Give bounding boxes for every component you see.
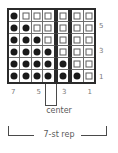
filled-stitch-cell: [32, 46, 43, 58]
empty-stitch-cell: [84, 34, 94, 46]
center-label: center: [0, 106, 118, 116]
chart-row: [9, 58, 94, 70]
empty-stitch-cell: [32, 22, 43, 34]
column-number-label: 1: [84, 88, 96, 96]
stitch-chart-grid: [7, 8, 96, 84]
empty-stitch-cell: [84, 58, 94, 70]
empty-stitch-cell: [43, 34, 55, 46]
dot-symbol-icon: [45, 60, 52, 67]
dot-symbol-icon: [11, 73, 18, 80]
filled-stitch-cell: [56, 70, 70, 82]
open-box-symbol-icon: [85, 12, 92, 19]
empty-stitch-cell: [70, 34, 83, 46]
empty-stitch-cell: [56, 22, 70, 34]
chart-row: [9, 70, 94, 82]
filled-stitch-cell: [32, 58, 43, 70]
chart-row: [9, 22, 94, 34]
open-box-symbol-icon: [85, 48, 92, 55]
open-box-symbol-icon: [74, 60, 81, 67]
open-box-symbol-icon: [74, 36, 81, 43]
repeat-label: 7-st rep: [0, 130, 118, 140]
row-number-label: 5: [99, 23, 113, 30]
filled-stitch-cell: [43, 70, 55, 82]
filled-stitch-cell: [9, 70, 20, 82]
stitch-chart-figure: center 7-st rep 5317531: [0, 0, 118, 153]
empty-stitch-cell: [56, 34, 70, 46]
open-box-symbol-icon: [85, 24, 92, 31]
dot-symbol-icon: [45, 73, 52, 80]
open-box-symbol-icon: [22, 12, 29, 19]
dot-symbol-icon: [22, 36, 29, 43]
chart-row: [9, 46, 94, 58]
filled-stitch-cell: [9, 58, 20, 70]
dot-symbol-icon: [22, 24, 29, 31]
open-box-symbol-icon: [85, 36, 92, 43]
dot-symbol-icon: [74, 73, 81, 80]
open-box-symbol-icon: [59, 48, 66, 55]
empty-stitch-cell: [84, 70, 94, 82]
dot-symbol-icon: [45, 48, 52, 55]
filled-stitch-cell: [20, 34, 31, 46]
empty-stitch-cell: [56, 46, 70, 58]
empty-stitch-cell: [70, 10, 83, 22]
dot-symbol-icon: [22, 60, 29, 67]
chart-row: [9, 10, 94, 22]
dot-symbol-icon: [59, 60, 66, 67]
open-box-symbol-icon: [59, 24, 66, 31]
empty-stitch-cell: [56, 10, 70, 22]
filled-stitch-cell: [9, 10, 20, 22]
row-number-label: 3: [99, 48, 113, 55]
open-box-symbol-icon: [34, 12, 41, 19]
column-number-label: 5: [33, 88, 45, 96]
filled-stitch-cell: [9, 22, 20, 34]
open-box-symbol-icon: [45, 24, 52, 31]
empty-stitch-cell: [70, 22, 83, 34]
filled-stitch-cell: [9, 34, 20, 46]
column-number-label: 7: [7, 88, 19, 96]
empty-stitch-cell: [84, 22, 94, 34]
filled-stitch-cell: [20, 70, 31, 82]
dot-symbol-icon: [34, 36, 41, 43]
dot-symbol-icon: [22, 48, 29, 55]
open-box-symbol-icon: [59, 36, 66, 43]
filled-stitch-cell: [9, 46, 20, 58]
filled-stitch-cell: [32, 70, 43, 82]
empty-stitch-cell: [43, 22, 55, 34]
open-box-symbol-icon: [45, 12, 52, 19]
open-box-symbol-icon: [85, 73, 92, 80]
open-box-symbol-icon: [59, 12, 66, 19]
dot-symbol-icon: [22, 73, 29, 80]
dot-symbol-icon: [11, 60, 18, 67]
empty-stitch-cell: [70, 58, 83, 70]
filled-stitch-cell: [43, 58, 55, 70]
column-number-label: 3: [58, 88, 70, 96]
empty-stitch-cell: [84, 10, 94, 22]
open-box-symbol-icon: [74, 12, 81, 19]
open-box-symbol-icon: [45, 36, 52, 43]
empty-stitch-cell: [32, 10, 43, 22]
empty-stitch-cell: [84, 46, 94, 58]
filled-stitch-cell: [56, 58, 70, 70]
empty-stitch-cell: [43, 10, 55, 22]
filled-stitch-cell: [20, 22, 31, 34]
row-number-label: 1: [99, 74, 113, 81]
filled-stitch-cell: [32, 34, 43, 46]
dot-symbol-icon: [11, 48, 18, 55]
chart-row: [9, 34, 94, 46]
open-box-symbol-icon: [34, 24, 41, 31]
open-box-symbol-icon: [85, 60, 92, 67]
dot-symbol-icon: [11, 36, 18, 43]
empty-stitch-cell: [20, 10, 31, 22]
dot-symbol-icon: [59, 73, 66, 80]
dot-symbol-icon: [34, 73, 41, 80]
filled-stitch-cell: [70, 70, 83, 82]
open-box-symbol-icon: [74, 48, 81, 55]
filled-stitch-cell: [20, 46, 31, 58]
empty-stitch-cell: [70, 46, 83, 58]
filled-stitch-cell: [20, 58, 31, 70]
dot-symbol-icon: [11, 12, 18, 19]
filled-stitch-cell: [43, 46, 55, 58]
center-bracket: [45, 84, 57, 106]
open-box-symbol-icon: [74, 24, 81, 31]
dot-symbol-icon: [34, 48, 41, 55]
